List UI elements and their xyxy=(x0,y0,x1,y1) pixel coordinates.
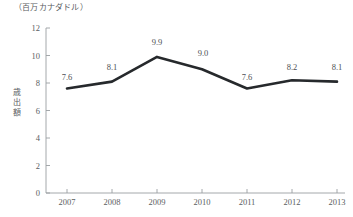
chart-container: （百万カナダドル） 歳 出 額 0 2 4 6 8 10 12 xyxy=(0,0,353,217)
data-point-label-2008: 8.1 xyxy=(98,62,126,72)
plot-area xyxy=(0,0,353,217)
x-tick-label-2012: 2012 xyxy=(272,197,312,207)
y-axis-ticks xyxy=(46,28,50,193)
x-tick-label-2011: 2011 xyxy=(227,197,267,207)
data-point-label-2007: 7.6 xyxy=(53,72,81,82)
x-tick-label-2010: 2010 xyxy=(182,197,222,207)
data-point-label-2012: 8.2 xyxy=(278,62,306,72)
data-point-label-2010: 9.0 xyxy=(189,48,217,58)
x-axis-ticks xyxy=(67,189,337,193)
x-tick-label-2008: 2008 xyxy=(92,197,132,207)
x-tick-label-2009: 2009 xyxy=(137,197,177,207)
data-point-label-2009: 9.9 xyxy=(143,37,171,47)
data-point-label-2013: 8.1 xyxy=(323,62,351,72)
x-tick-label-2007: 2007 xyxy=(47,197,87,207)
x-tick-label-2013: 2013 xyxy=(317,197,353,207)
data-point-label-2011: 7.6 xyxy=(233,72,261,82)
